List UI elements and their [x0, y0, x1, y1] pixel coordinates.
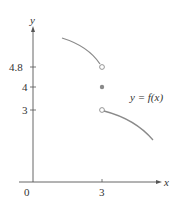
y-tick-4.8-label: 4.8 — [9, 61, 23, 73]
x-axis-arrow-icon — [156, 180, 162, 184]
left-branch-curve — [62, 38, 100, 64]
function-label: y = f(x) — [129, 91, 163, 104]
function-graph: y x 0 3 4.8 4 3 y = f(x) — [0, 0, 175, 205]
x-axis-label: x — [163, 176, 169, 188]
filled-point-4 — [100, 85, 104, 89]
open-point-4.8 — [100, 65, 105, 70]
y-axis-label: y — [29, 14, 35, 26]
origin-label: 0 — [24, 186, 30, 198]
right-branch-curve — [104, 111, 153, 140]
y-axis-arrow-icon — [31, 26, 35, 32]
y-tick-4-label: 4 — [22, 81, 28, 93]
open-point-3 — [100, 108, 105, 113]
x-tick-3-label: 3 — [99, 186, 105, 198]
y-tick-3-label: 3 — [22, 104, 28, 116]
